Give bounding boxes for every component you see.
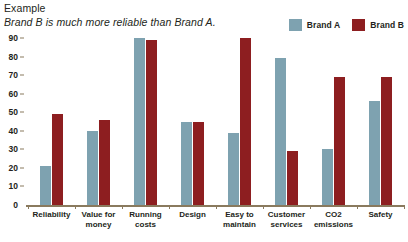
bar [240,38,251,205]
bar [287,151,298,205]
bar [193,122,204,206]
bar [40,166,51,205]
bar [87,131,98,205]
y-axis-tick-mark [20,93,24,94]
bar [369,101,380,205]
x-axis-tick-label: Reliability [29,210,75,230]
y-axis-tick-label: 40 [9,126,18,136]
chart-legend: Brand ABrand B [289,19,404,31]
y-axis-tick-mark [20,130,24,131]
chart-title: Example [4,2,404,15]
bar-group [369,38,392,205]
x-axis-tick-mark [263,205,264,209]
y-axis-tick-mark [20,112,24,113]
bar [134,38,145,205]
x-axis-tick-label: Value for money [76,210,122,230]
y-axis-tick-label: 80 [9,52,18,62]
y-axis-tick-mark [20,149,24,150]
y-axis-tick-label: 50 [9,107,18,117]
x-axis-tick-label: Design [170,210,216,230]
bar-group [322,38,345,205]
x-axis-tick-label: Customer services [264,210,310,230]
x-axis-tick-label: Easy to maintain [217,210,263,230]
legend-label: Brand B [370,20,404,30]
y-axis-tick-label: 20 [9,163,18,173]
legend-entry: Brand B [352,19,404,31]
x-axis-tick-label: CO2 emissions [311,210,357,230]
x-axis-tick-mark [75,205,76,209]
x-axis-tick-mark [310,205,311,209]
bar [381,77,392,205]
y-axis-tick-mark [20,167,24,168]
bar-group [275,38,298,205]
bar-group [134,38,157,205]
plot-area [28,38,404,205]
plot-wrapper: 908070605040302010 0 ReliabilityValue fo… [0,38,408,242]
chart-figure: Example Brand B is much more reliable th… [0,0,408,242]
bar [334,77,345,205]
y-axis-tick-mark [20,186,24,187]
legend-swatch-brand-a [289,19,302,31]
bar [181,122,192,206]
bar [52,114,63,205]
legend-swatch-brand-b [352,19,365,31]
x-axis-tick-label: Running costs [123,210,169,230]
y-axis-tick-label: 30 [9,144,18,154]
bar [275,58,286,205]
bar-group [228,38,251,205]
bar [228,133,239,205]
x-axis-tick-mark [216,205,217,209]
y-axis-tick-mark [20,56,24,57]
bar-group [40,38,63,205]
legend-label: Brand A [307,20,340,30]
x-axis-labels: ReliabilityValue for moneyRunning costsD… [28,210,404,230]
bar-group [87,38,110,205]
legend-entry: Brand A [289,19,340,31]
y-axis-tick-label: 10 [9,181,18,191]
y-axis-tick-label: 60 [9,89,18,99]
x-axis-tick-mark [28,205,29,209]
x-axis-line [26,205,404,207]
bar [99,120,110,205]
y-axis-zero-label: 0 [0,200,18,210]
bar [322,149,333,205]
x-axis-tick-mark [357,205,358,209]
y-axis-tick-mark [20,75,24,76]
x-axis-tick-mark [169,205,170,209]
bar [146,40,157,205]
y-axis: 908070605040302010 [0,38,26,206]
x-axis-tick-mark [404,205,405,209]
y-axis-tick-label: 70 [9,70,18,80]
bar-group [181,38,204,205]
bar-groups [28,38,404,205]
y-axis-tick-label: 90 [9,33,18,43]
x-axis-tick-mark [122,205,123,209]
y-axis-tick-mark [20,38,24,39]
x-axis-tick-label: Safety [358,210,404,230]
